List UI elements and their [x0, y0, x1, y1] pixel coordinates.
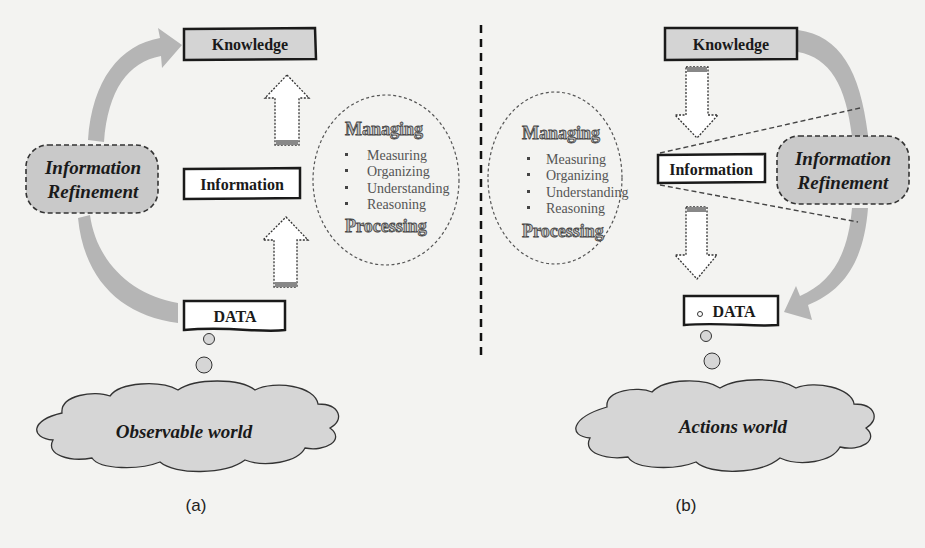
knowledge-label: Knowledge [693, 36, 769, 54]
refinement-label-line2: Refinement [47, 181, 139, 202]
process-item: Reasoning [367, 197, 426, 212]
refinement-label-line1: Information [44, 157, 141, 178]
panel-b-caption: (b) [676, 496, 697, 515]
information-label: Information [669, 161, 753, 178]
up-arrow-icon [265, 75, 309, 145]
process-item: Organizing [367, 164, 430, 179]
managing-processing-circle: Managing Measuring Organizing Understand… [313, 95, 459, 265]
thought-bubble-icon [704, 353, 720, 369]
managing-heading: Managing [345, 119, 423, 139]
knowledge-box: Knowledge [184, 28, 316, 60]
process-item: Understanding [367, 181, 449, 196]
data-box: DATA [684, 296, 778, 325]
refinement-label-line2: Refinement [797, 172, 889, 193]
observable-world-cloud: Observable world [37, 381, 339, 472]
process-list: Measuring Organizing Understanding Reaso… [345, 148, 449, 212]
information-refinement-node: Information Refinement [777, 136, 909, 204]
managing-heading: Managing [522, 123, 600, 143]
information-box: Information [184, 168, 300, 199]
managing-processing-circle: Managing Measuring Organizing Understand… [488, 92, 628, 264]
data-label: DATA [214, 308, 257, 325]
process-item: Reasoning [546, 201, 605, 216]
down-arrow-icon [675, 207, 717, 279]
process-item: Measuring [546, 152, 606, 167]
actions-world-label: Actions world [678, 416, 788, 437]
knowledge-label: Knowledge [212, 36, 288, 54]
diagram-canvas: Knowledge Information DATA Information R… [0, 0, 925, 548]
processing-heading: Processing [345, 216, 427, 236]
information-refinement-node: Information Refinement [26, 145, 158, 213]
panel-a-caption: (a) [186, 496, 207, 515]
processing-heading: Processing [522, 221, 604, 241]
up-arrow-icon [263, 217, 308, 287]
refinement-label-line1: Information [794, 148, 891, 169]
panel-b: Knowledge Information DATA Information R… [488, 28, 909, 515]
process-item: Measuring [367, 148, 427, 163]
information-box: Information [658, 154, 765, 183]
thought-bubble-icon [701, 331, 712, 342]
data-label: DATA [713, 303, 756, 320]
observable-world-label: Observable world [116, 421, 253, 442]
process-item: Understanding [546, 185, 628, 200]
down-arrow-icon [675, 67, 718, 138]
actions-world-cloud: Actions world [576, 380, 874, 472]
thought-bubble-icon [196, 357, 212, 373]
knowledge-box: Knowledge [665, 28, 797, 60]
thought-bubble-icon [204, 334, 215, 345]
panel-a: Knowledge Information DATA Information R… [26, 28, 459, 515]
information-label: Information [200, 176, 284, 193]
process-list: Measuring Organizing Understanding Reaso… [527, 152, 628, 216]
process-item: Organizing [546, 168, 609, 183]
data-box: DATA [184, 301, 285, 331]
